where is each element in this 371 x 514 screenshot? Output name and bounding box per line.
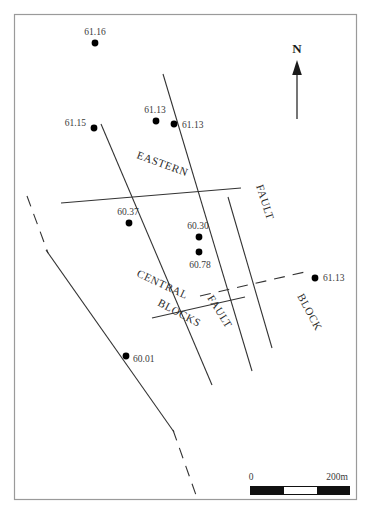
map-border [15, 15, 357, 500]
data-point-61-13-b-label: 61.13 [182, 120, 204, 130]
data-point-61-15-label: 61.15 [65, 118, 87, 128]
data-point-61-13-b-marker [171, 121, 178, 128]
data-point-60-37-label: 60.37 [117, 207, 139, 217]
data-point-60-78-marker [196, 249, 203, 256]
data-point-61-13-a-marker [153, 118, 160, 125]
data-point-61-13-a-label: 61.13 [144, 105, 166, 115]
map-canvas: 61.16 61.15 61.13 61.13 60.37 60.30 60.7… [0, 0, 371, 514]
data-point-61-15-marker [91, 125, 98, 132]
north-arrow-label: N [292, 41, 302, 56]
scale-bar-segment-2 [284, 487, 317, 494]
data-point-60-78-label: 60.78 [189, 260, 211, 270]
geological-map-figure: 61.16 61.15 61.13 61.13 60.37 60.30 60.7… [0, 0, 371, 514]
data-point-60-01-label: 60.01 [133, 354, 155, 364]
data-point-61-16-label: 61.16 [84, 27, 106, 37]
data-point-60-37-marker [126, 220, 133, 227]
data-point-61-13-c-marker [312, 275, 319, 282]
data-point-60-30-marker [196, 234, 203, 241]
scale-bar-segment-3 [317, 487, 349, 494]
scale-bar-max-label: 200m [326, 472, 348, 482]
data-point-61-13-c-label: 61.13 [323, 273, 345, 283]
data-point-61-16-marker [92, 40, 99, 47]
data-point-60-30-label: 60.30 [187, 221, 209, 231]
scale-bar-min-label: 0 [249, 472, 254, 482]
scale-bar-segment-1 [251, 487, 284, 494]
data-point-60-01-marker [123, 353, 130, 360]
